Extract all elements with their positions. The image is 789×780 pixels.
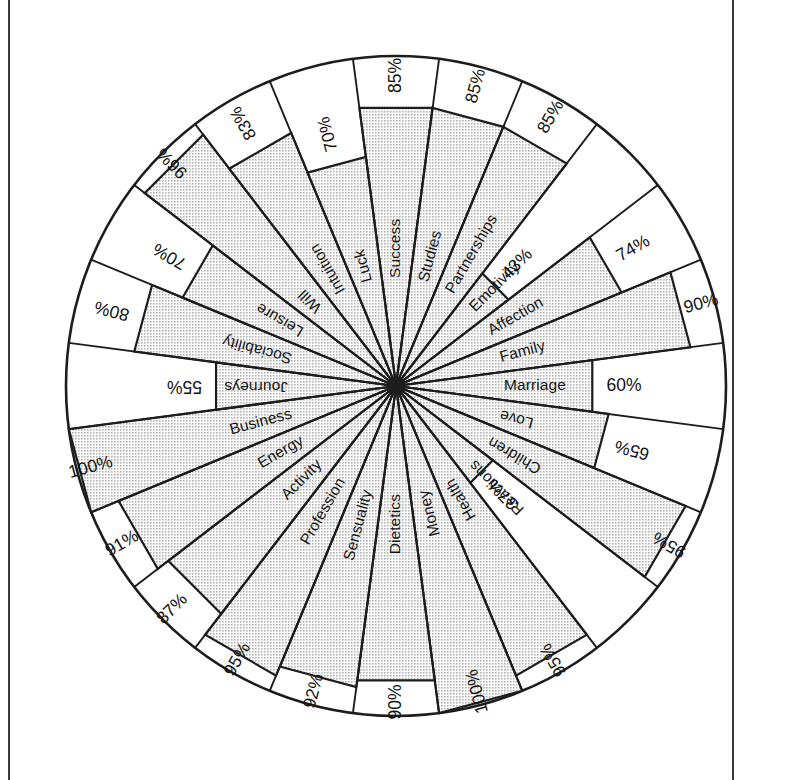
spoke-label-marriage: Marriage xyxy=(504,376,566,393)
value-label-dietetics: 90% xyxy=(385,684,405,719)
value-label-marriage: 60% xyxy=(606,375,641,395)
value-label-journeys: 55% xyxy=(167,377,202,397)
center-hub xyxy=(387,377,405,395)
radar-chart: SuccessStudiesPartnershipsEmotivityAffec… xyxy=(0,0,789,780)
spoke-label-success: Success xyxy=(386,219,403,278)
radar-chart-svg: SuccessStudiesPartnershipsEmotivityAffec… xyxy=(0,0,789,780)
spoke-label-dietetics: Dietetics xyxy=(386,494,403,554)
value-label-success: 85% xyxy=(385,58,405,93)
spoke-label-journeys: Journeys xyxy=(224,379,288,396)
